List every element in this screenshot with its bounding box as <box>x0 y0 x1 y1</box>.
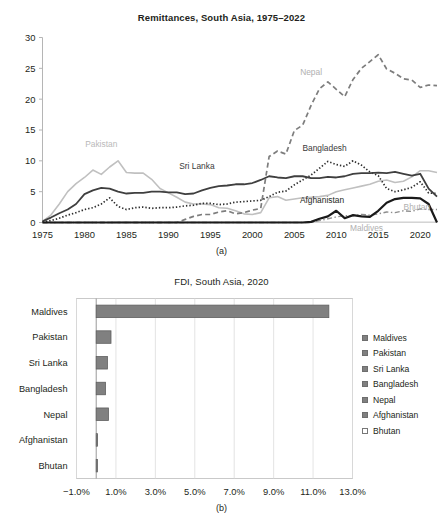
bar-chart-category-label: Sri Lanka <box>29 358 69 368</box>
line-chart-x-tick-label: 2020 <box>410 229 431 240</box>
bar-bhutan <box>96 459 97 472</box>
bar-chart-category-label: Bangladesh <box>19 384 68 394</box>
bar-maldives <box>96 305 329 318</box>
bar-pakistan <box>96 331 111 344</box>
legend-item-bhutan[interactable]: Bhutan <box>362 423 443 439</box>
line-chart-x-tick-label: 1995 <box>200 229 221 240</box>
line-label-bhutan: Bhutan <box>404 202 431 212</box>
figure-remittances-fdi: Remittances, South Asia, 1975–2022 05101… <box>0 0 443 520</box>
legend-swatch-icon <box>362 350 368 356</box>
bar-afghanistan <box>96 434 97 447</box>
legend-item-afghanistan[interactable]: Afghanistan <box>362 408 443 424</box>
bar-bangladesh <box>96 382 105 395</box>
line-chart-x-tick-label: 1975 <box>32 229 53 240</box>
legend-label: Afghanistan <box>373 410 418 420</box>
bar-chart-category-label: Afghanistan <box>19 435 68 445</box>
legend-item-pakistan[interactable]: Pakistan <box>362 346 443 362</box>
line-chart-x-tick-label: 2000 <box>242 229 263 240</box>
legend-label: Nepal <box>373 395 395 405</box>
line-chart-y-tick-label: 20 <box>25 94 35 105</box>
line-chart-x-tick-label: 1985 <box>116 229 137 240</box>
line-series-afghanistan <box>43 198 438 223</box>
legend-item-bangladesh[interactable]: Bangladesh <box>362 377 443 393</box>
bar-sri-lanka <box>96 357 107 370</box>
line-label-pakistan: Pakistan <box>85 139 117 149</box>
bar-chart-x-tick-label: 7.0% <box>224 486 245 497</box>
legend-swatch-icon <box>362 335 368 341</box>
line-chart-x-tick-label: 1980 <box>74 229 95 240</box>
legend-label: Pakistan <box>373 348 406 358</box>
legend-item-nepal[interactable]: Nepal <box>362 392 443 408</box>
panel-a-caption: (a) <box>0 246 443 256</box>
legend-label: Bhutan <box>373 426 400 436</box>
line-chart-x-tick-label: 2010 <box>326 229 347 240</box>
bar-chart-x-tick-label: 11.0% <box>300 486 326 497</box>
line-label-nepal: Nepal <box>300 67 322 77</box>
legend-swatch-icon <box>362 366 368 372</box>
legend-swatch-icon <box>362 428 368 434</box>
legend-label: Maldives <box>373 333 407 343</box>
panel-a-line-chart: Remittances, South Asia, 1975–2022 05101… <box>0 0 443 258</box>
legend-swatch-icon <box>362 412 368 418</box>
line-label-bangladesh: Bangladesh <box>302 143 347 153</box>
line-label-afghanistan: Afghanistan <box>300 195 345 205</box>
line-chart-x-tick-label: 1990 <box>158 229 179 240</box>
panel-b-caption: (b) <box>0 503 443 513</box>
line-chart-y-tick-label: 5 <box>30 186 35 197</box>
bar-chart-x-tick-label: 13.0% <box>339 486 366 497</box>
bar-chart-category-label: Pakistan <box>32 332 67 342</box>
legend-item-maldives[interactable]: Maldives <box>362 330 443 346</box>
legend-label: Sri Lanka <box>373 364 409 374</box>
bar-chart-category-label: Nepal <box>43 410 67 420</box>
bar-chart-plot-frame <box>77 299 353 479</box>
bar-chart-x-tick-label: 9.0% <box>263 486 284 497</box>
line-chart-svg: 0510152025301975198019851990199520002005… <box>0 0 443 258</box>
line-chart-y-tick-label: 25 <box>25 63 35 74</box>
panel-b-bar-chart: FDI, South Asia, 2020 MaldivesPakistanSr… <box>0 262 443 520</box>
bar-chart-x-tick-label: 5.0% <box>184 486 205 497</box>
legend-swatch-icon <box>362 397 368 403</box>
line-chart-y-tick-label: 15 <box>25 124 35 135</box>
line-chart-y-tick-label: 0 <box>30 217 35 228</box>
line-chart-y-tick-label: 30 <box>25 32 35 43</box>
bar-chart-category-label: Maldives <box>31 307 68 317</box>
legend-label: Bangladesh <box>373 379 418 389</box>
bar-chart-x-tick-label: 1.0% <box>105 486 126 497</box>
line-chart-x-tick-label: 2005 <box>284 229 305 240</box>
bar-chart-x-tick-label: −1.0% <box>63 486 90 497</box>
bar-nepal <box>96 408 108 421</box>
legend-item-sri-lanka[interactable]: Sri Lanka <box>362 361 443 377</box>
line-label-sri-lanka: Sri Lanka <box>179 161 215 171</box>
line-label-maldives: Maldives <box>350 223 383 233</box>
line-chart-y-tick-label: 10 <box>25 155 35 166</box>
bar-chart-legend: MaldivesPakistanSri LankaBangladeshNepal… <box>362 330 443 439</box>
legend-swatch-icon <box>362 381 368 387</box>
bar-chart-category-label: Bhutan <box>38 461 67 471</box>
bar-chart-x-tick-label: 3.0% <box>145 486 166 497</box>
